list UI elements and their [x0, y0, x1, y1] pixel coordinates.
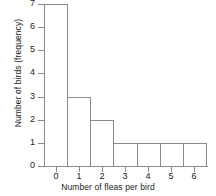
y-tick-label: 7	[22, 0, 35, 8]
x-tick-label: 1	[71, 171, 87, 181]
y-tick-mark	[38, 166, 44, 167]
x-tick-label: 3	[117, 171, 133, 181]
x-tick-label: 0	[48, 171, 64, 181]
histogram-bar	[113, 143, 137, 166]
y-tick-label: 1	[22, 138, 35, 147]
histogram-bar	[90, 120, 114, 166]
x-tick-label: 5	[163, 171, 179, 181]
y-tick-label: 3	[22, 92, 35, 101]
histogram-bar	[183, 143, 207, 166]
x-tick-label: 6	[186, 171, 202, 181]
y-tick-label: 0	[22, 161, 35, 170]
plot-area	[44, 4, 206, 166]
histogram-chart: Number of birds (frequency) 01234567 012…	[0, 0, 216, 196]
x-axis-line	[38, 166, 208, 167]
x-tick-label: 2	[94, 171, 110, 181]
histogram-bar	[137, 143, 161, 166]
histogram-bar	[67, 97, 91, 166]
y-tick-label: 5	[22, 45, 35, 54]
histogram-bar	[160, 143, 184, 166]
x-tick-label: 4	[140, 171, 156, 181]
y-tick-label: 4	[22, 68, 35, 77]
y-tick-label: 2	[22, 115, 35, 124]
histogram-bar	[44, 4, 68, 166]
x-axis-label: Number of fleas per bird	[0, 182, 216, 192]
y-tick-label: 6	[22, 22, 35, 31]
